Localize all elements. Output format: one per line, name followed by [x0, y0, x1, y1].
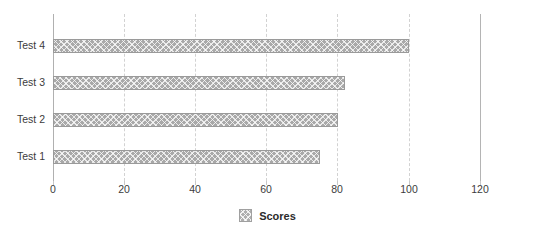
y-axis-tick-label: Test 3 [0, 76, 45, 88]
x-axis-tick-label: 60 [260, 183, 272, 195]
x-axis-tick-label: 20 [118, 183, 130, 195]
x-axis-labels: 0 20 40 60 80 100 120 [53, 183, 480, 199]
bar-row [53, 139, 480, 176]
bar-test-4[interactable] [53, 39, 409, 53]
legend-swatch-icon [239, 209, 252, 222]
x-axis-tick-label: 40 [189, 183, 201, 195]
x-axis-tick-label: 80 [331, 183, 343, 195]
bar-test-1[interactable] [53, 150, 320, 164]
gridline-120 [480, 14, 481, 181]
x-axis-tick-label: 100 [400, 183, 418, 195]
legend-label: Scores [259, 210, 296, 222]
y-axis-tick-label: Test 2 [0, 113, 45, 125]
bar-row [53, 102, 480, 139]
bar-chart: Test 4 Test 3 Test 2 Test 1 0 2 [0, 0, 535, 239]
y-axis-labels: Test 4 Test 3 Test 2 Test 1 [0, 14, 45, 181]
bar-test-2[interactable] [53, 113, 338, 127]
chart-legend: Scores [0, 209, 535, 222]
bar-test-3[interactable] [53, 76, 345, 90]
y-axis-tick-label: Test 4 [0, 39, 45, 51]
x-axis-tick-label: 120 [471, 183, 489, 195]
x-axis-tick-label: 0 [50, 183, 56, 195]
bar-row [53, 28, 480, 65]
plot-area [53, 14, 480, 181]
bar-row [53, 65, 480, 102]
y-axis-tick-label: Test 1 [0, 150, 45, 162]
